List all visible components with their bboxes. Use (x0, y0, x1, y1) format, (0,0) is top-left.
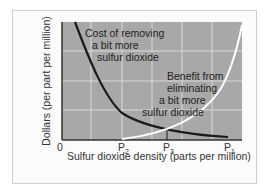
y-axis-label: Dollars (per part per million) (40, 16, 52, 146)
cost-annotation: Cost of removing a bit more sulfur dioxi… (85, 27, 164, 63)
x-axis-label: Sulfur dioxide density (parts per millio… (67, 150, 251, 162)
benefit-annotation: Benefit from eliminating a bit more sulf… (142, 70, 224, 118)
tick-0: 0 (57, 141, 63, 153)
